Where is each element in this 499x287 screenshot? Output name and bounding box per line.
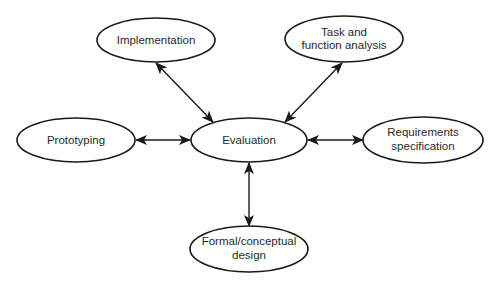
node-label-line-2: function analysis <box>301 39 386 51</box>
star-lifecycle-diagram: Implementation Task and function analysi… <box>0 0 499 287</box>
node-label: Implementation <box>117 34 196 46</box>
node-label-line-1: Requirements <box>387 126 459 138</box>
double-arrow-icon <box>285 63 342 122</box>
node-prototyping: Prototyping <box>17 118 135 162</box>
node-requirements-specification: Requirements specification <box>363 117 483 163</box>
node-label: Prototyping <box>47 134 105 146</box>
node-label-line-1: Task and <box>321 26 367 38</box>
node-evaluation: Evaluation <box>191 118 307 162</box>
node-implementation: Implementation <box>97 18 215 62</box>
double-arrow-icon <box>156 63 213 122</box>
node-label: Evaluation <box>222 134 276 146</box>
node-label-line-1: Formal/conceptual <box>202 235 297 247</box>
edge-evaluation-implementation <box>156 63 213 122</box>
node-formal-conceptual-design: Formal/conceptual design <box>190 226 308 272</box>
edge-evaluation-task <box>285 63 342 122</box>
node-label-line-2: specification <box>391 140 454 152</box>
node-task-function-analysis: Task and function analysis <box>285 16 403 62</box>
node-label-line-2: design <box>232 249 266 261</box>
